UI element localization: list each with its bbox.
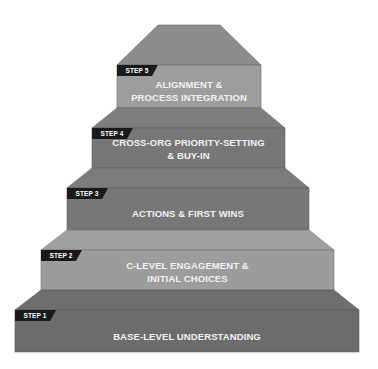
- top-cap: [117, 25, 261, 65]
- step-5-tab: STEP 5: [117, 65, 152, 76]
- step-4-top: [92, 108, 285, 128]
- step-4-line-1: CROSS-ORG PRIORITY-SETTING: [112, 136, 265, 149]
- step-4-tab: STEP 4: [92, 128, 127, 139]
- step-3-top: [67, 168, 309, 188]
- step-3-panel: STEP 3 ACTIONS & FIRST WINS: [67, 188, 309, 230]
- step-2-top: [41, 230, 334, 250]
- step-2-line-2: INITIAL CHOICES: [147, 272, 228, 285]
- step-5-line-2: PROCESS INTEGRATION: [131, 91, 247, 104]
- step-1-top: [15, 290, 359, 310]
- step-4-panel: STEP 4 CROSS-ORG PRIORITY-SETTING & BUY-…: [92, 128, 285, 168]
- step-2-panel: STEP 2 C-LEVEL ENGAGEMENT & INITIAL CHOI…: [41, 250, 334, 290]
- step-3-line-1: ACTIONS & FIRST WINS: [132, 207, 244, 220]
- step-2-line-1: C-LEVEL ENGAGEMENT &: [126, 259, 249, 272]
- step-1-panel: STEP 1 BASE-LEVEL UNDERSTANDING: [15, 310, 359, 352]
- step-5-line-1: ALIGNMENT &: [155, 78, 222, 91]
- step-2-tab: STEP 2: [41, 250, 76, 261]
- step-1-line-1: BASE-LEVEL UNDERSTANDING: [113, 330, 261, 343]
- step-3-tab: STEP 3: [67, 188, 102, 199]
- step-5-panel: STEP 5 ALIGNMENT & PROCESS INTEGRATION: [117, 65, 261, 108]
- step-1-tab: STEP 1: [15, 310, 50, 321]
- step-4-line-2: & BUY-IN: [167, 149, 210, 162]
